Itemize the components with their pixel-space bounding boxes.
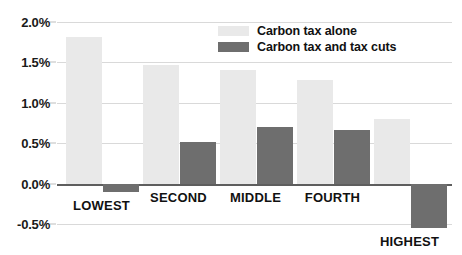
bar-group-lowest <box>66 0 143 255</box>
y-axis-tick-label: 1.5% <box>21 55 50 70</box>
ytick-dash <box>50 102 56 103</box>
legend-label-1: Carbon tax and tax cuts <box>257 40 396 54</box>
ytick-dash <box>50 224 56 225</box>
x-axis-label-lowest: LOWEST <box>73 198 130 213</box>
x-axis-label-fourth: FOURTH <box>305 190 360 205</box>
y-axis-tick-label: 0.0% <box>21 176 50 191</box>
bar-middle-series-0 <box>220 70 256 183</box>
ytick-dash <box>50 22 56 23</box>
bar-highest-series-0 <box>374 119 410 184</box>
y-axis-tick-label: 0.5% <box>21 136 50 151</box>
bar-second-series-0 <box>143 65 179 184</box>
bar-lowest-series-0 <box>66 37 102 183</box>
bar-highest-series-1 <box>411 184 447 228</box>
y-axis-tick-label: 1.0% <box>21 95 50 110</box>
legend-swatch-icon-light <box>218 26 249 36</box>
y-axis-tick-label: -0.5% <box>17 217 50 232</box>
bar-group-second <box>143 0 220 255</box>
x-axis-label-second: SECOND <box>150 190 207 205</box>
x-axis-label-highest: HIGHEST <box>380 234 439 249</box>
bar-middle-series-1 <box>257 127 293 184</box>
ytick-dash <box>50 62 56 63</box>
bar-second-series-1 <box>180 142 216 184</box>
x-axis-label-middle: MIDDLE <box>230 190 281 205</box>
chart-legend: Carbon tax alone Carbon tax and tax cuts <box>218 24 396 56</box>
bar-fourth-series-0 <box>297 80 333 183</box>
legend-item-carbon-tax-and-tax-cuts: Carbon tax and tax cuts <box>218 40 396 54</box>
legend-item-carbon-tax-alone: Carbon tax alone <box>218 24 396 38</box>
legend-swatch-icon-dark <box>218 42 249 52</box>
bar-fourth-series-1 <box>334 130 370 183</box>
ytick-dash <box>50 143 56 144</box>
y-axis-tick-label: 2.0% <box>21 15 50 30</box>
bar-lowest-series-1 <box>103 184 139 192</box>
bar-chart: 2.0%1.5%1.0%0.5%0.0%-0.5% LOWESTSECONDMI… <box>0 0 462 255</box>
legend-label-0: Carbon tax alone <box>257 24 357 38</box>
ytick-dash <box>50 183 56 184</box>
